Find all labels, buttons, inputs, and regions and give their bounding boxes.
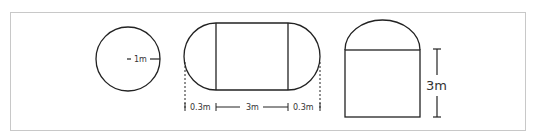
left-cap-label: 0.3m xyxy=(190,103,211,112)
middle-label: 3m xyxy=(246,103,259,112)
shapes-diagram: 1m 0.3m 3m 0.3m 3m xyxy=(0,0,538,140)
circle-radius-label: 1m xyxy=(134,55,147,64)
circle-shape: 1m xyxy=(96,27,160,91)
right-cap-label: 0.3m xyxy=(293,103,314,112)
dome-rect-shape: 3m xyxy=(345,20,447,117)
stadium-shape: 0.3m 3m 0.3m xyxy=(184,23,320,112)
height-label: 3m xyxy=(426,78,447,93)
